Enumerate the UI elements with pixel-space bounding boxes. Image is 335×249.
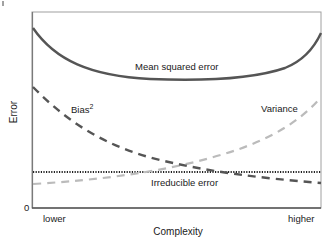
x-tick-lower: lower: [43, 213, 66, 224]
mse-label: Mean squared error: [135, 61, 218, 72]
irreducible-error-label: Irreducible error: [151, 177, 218, 188]
x-axis-title: Complexity: [153, 226, 202, 237]
mse-curve: [33, 28, 321, 80]
x-tick-higher: higher: [288, 213, 314, 224]
bias-variance-chart: Mean squared error Bias2 Variance Irredu…: [0, 0, 335, 249]
variance-label: Variance: [261, 103, 298, 114]
y-axis-title: Error: [8, 100, 19, 123]
bias-squared-curve: [33, 87, 321, 183]
y-tick-zero: 0: [24, 202, 29, 213]
bias-label: Bias2: [71, 103, 93, 115]
